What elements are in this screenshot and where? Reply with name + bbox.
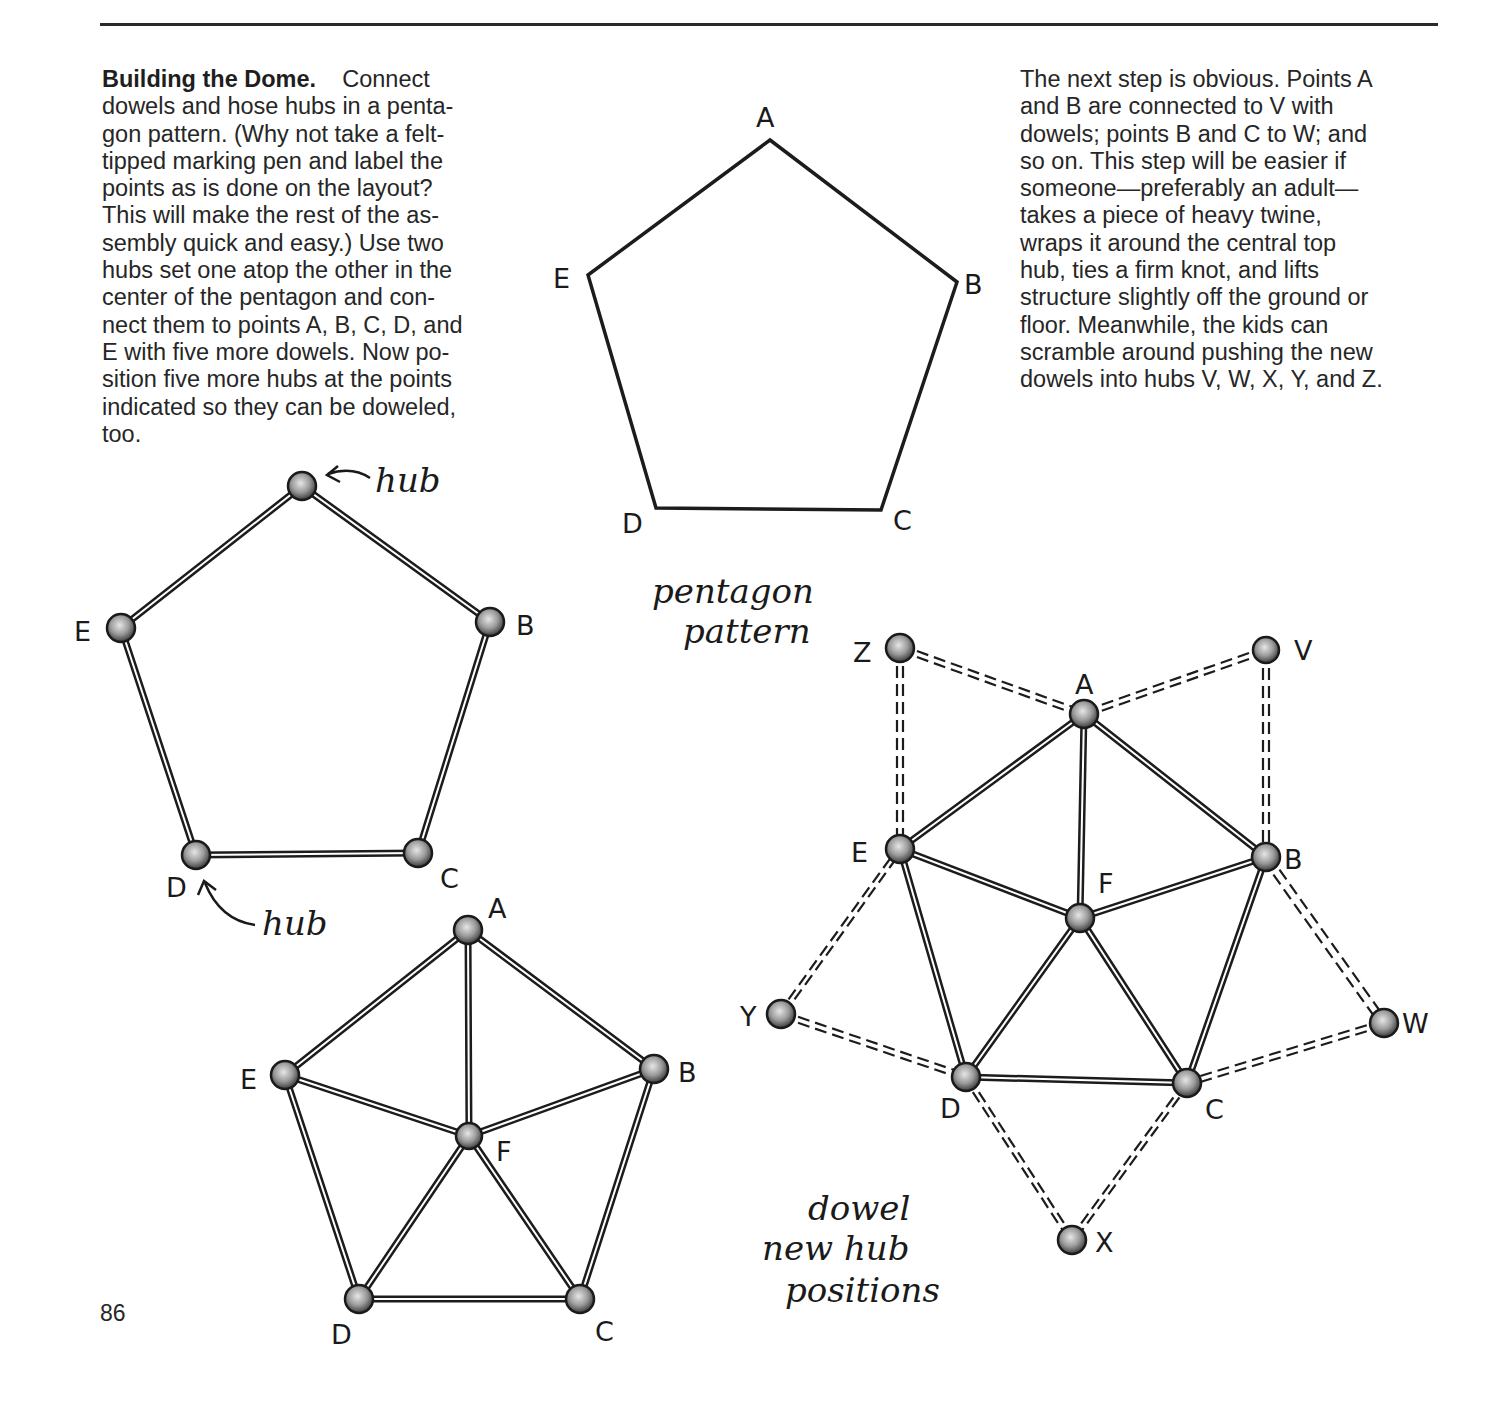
hub-icon [404,839,432,867]
new-hub-icon [886,634,914,662]
caption-pattern: pattern [683,611,811,651]
hub-icon [566,1285,594,1313]
vertex-label-f: F [1098,868,1114,899]
vertex-label-y: Y [739,1001,757,1032]
hubs [767,634,1398,1254]
vertex-label-a: A [488,893,507,924]
vertex-label-b: B [964,269,983,300]
vertex-label-c: C [1205,1094,1224,1125]
new-hub-icon [1253,637,1279,663]
hub-icon [476,608,504,636]
dowels [900,714,1266,1083]
vertex-label-w: W [1402,1008,1429,1039]
hub-pentagon-diagram: B C D E hub hub [74,460,535,943]
vertex-label-e: E [851,837,868,868]
diagrams-canvas: A B C D E pentagon pattern [0,0,1512,1412]
hub-icon [271,1061,299,1089]
dowels [285,930,654,1299]
vertex-label-b: B [678,1057,697,1088]
hub-icon [1066,904,1094,932]
hubs [107,472,504,869]
hub-icon [1070,700,1098,728]
hub-icon [288,472,316,500]
hub-icon [107,614,135,642]
center-hub-diagram: A B C D E F [240,893,697,1350]
vertex-label-d: D [940,1093,961,1124]
vertex-label-c: C [595,1316,614,1347]
vertex-label-d: D [622,508,643,539]
hub-icon [886,835,914,863]
vertex-label-d: D [331,1319,352,1350]
arrow-icon [328,471,370,478]
legend-dowel: dowel [808,1188,910,1228]
vertex-label-v: V [1294,635,1313,666]
pentagon-layout-diagram: A B C D E pentagon pattern [553,102,983,651]
vertex-label-b: B [516,610,535,641]
vertex-label-b: B [1284,844,1303,875]
hub-icon [345,1285,373,1313]
vertex-label-e: E [553,263,570,294]
hub-icon [640,1055,668,1083]
vertex-label-e: E [240,1064,257,1095]
caption-pentagon: pentagon [652,571,814,611]
pentagon-outline [588,140,957,510]
hub-icon [456,1123,482,1149]
hub-icon [952,1063,980,1091]
vertex-label-a: A [1075,669,1094,700]
legend-positions: positions [785,1270,940,1310]
vertex-label-c: C [893,505,912,536]
hub-icon [1173,1069,1201,1097]
vertex-label-z: Z [853,637,872,668]
vertex-label-x: X [1095,1227,1114,1258]
vertex-label-f: F [496,1136,512,1167]
dowels [121,486,490,855]
legend-new-hub: new hub [762,1228,910,1268]
annotation-hub-bottom: hub [262,903,328,943]
new-hub-icon [767,1000,795,1028]
annotation-hub-top: hub [375,460,441,500]
hub-icon [1252,843,1280,871]
vertex-label-a: A [756,102,775,133]
arrow-icon [205,883,255,925]
vertex-label-c: C [440,863,459,894]
arrowhead-icon [327,466,340,482]
new-hub-icon [1370,1009,1398,1037]
vertex-label-e: E [74,616,91,647]
new-hub-icon [1058,1226,1086,1254]
expanded-dome-diagram: A B C D E F V W X Y Z dowel new hub posi… [739,634,1429,1310]
hub-icon [454,916,482,944]
vertex-label-d: D [166,872,187,903]
hub-icon [182,841,210,869]
